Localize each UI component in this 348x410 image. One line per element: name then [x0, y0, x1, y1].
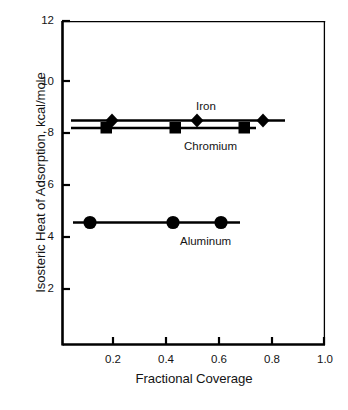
- caption-sliver: [0, 401, 348, 410]
- data-point-iron-2: [191, 114, 204, 128]
- data-point-chromium-2: [170, 122, 182, 134]
- series-annotation-aluminum: Aluminum: [180, 235, 231, 247]
- data-point-chromium-1: [101, 122, 113, 134]
- data-point-aluminum-3: [214, 216, 227, 229]
- series-chromium: [71, 122, 256, 134]
- plot-area: [0, 0, 348, 410]
- axis-frame: [63, 21, 326, 346]
- data-point-chromium-3: [239, 122, 251, 134]
- series-annotation-chromium: Chromium: [184, 140, 237, 152]
- x-axis-title: Fractional Coverage: [62, 371, 326, 386]
- chart-figure: Isosteric Heat of Adsorption, kcal/mole …: [0, 0, 348, 410]
- data-point-aluminum-1: [83, 216, 96, 229]
- data-point-iron-3: [257, 114, 270, 128]
- series-annotation-iron: Iron: [196, 100, 216, 112]
- data-point-aluminum-2: [166, 216, 179, 229]
- series-aluminum: [73, 216, 240, 229]
